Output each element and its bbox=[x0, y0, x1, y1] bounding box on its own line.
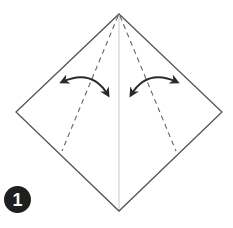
left-valley-fold-line bbox=[62, 16, 118, 151]
step-number-badge: 1 bbox=[4, 186, 31, 213]
right-valley-fold-line bbox=[120, 16, 176, 151]
left-fold-unfold-arrow-icon bbox=[62, 77, 108, 95]
step-number-label: 1 bbox=[12, 191, 22, 209]
origami-diagram bbox=[0, 0, 233, 228]
right-fold-unfold-arrow-icon bbox=[131, 77, 177, 95]
